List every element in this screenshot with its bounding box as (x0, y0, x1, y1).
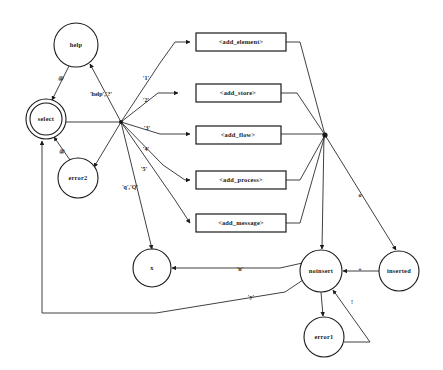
edge-label-help-to-select: @ (58, 75, 64, 81)
edge-hub-to-add-store (121, 93, 178, 122)
node-add-process[interactable]: <add_process> (196, 171, 286, 189)
edge-hub-to-noinsert (322, 135, 324, 249)
add-store-label: <add_store> (220, 89, 257, 96)
edge-label-hub-to-x: 'q','Q' (122, 184, 139, 190)
noinsert-label: noinsert (309, 267, 334, 274)
add-process-label: <add_process> (219, 176, 263, 183)
edge-label-hub-to-help: 'help','?' (90, 91, 113, 97)
node-add-element[interactable]: <add_element> (196, 33, 286, 51)
edge-label-hub-to-add-element: '1' (143, 75, 150, 81)
node-add-message[interactable]: <add_message> (196, 214, 286, 232)
node-noinsert[interactable]: noinsert (300, 250, 342, 292)
error2-label: error2 (68, 174, 87, 181)
edge-hub-to-error2 (94, 122, 121, 167)
edge-label-noinsert-to-x: 'n' (237, 266, 244, 272)
node-error1[interactable]: error1 (304, 317, 344, 357)
node-error2[interactable]: error2 (58, 158, 98, 198)
left-hub-dot (119, 120, 123, 124)
edge-label-return-to-select: 'y' (248, 294, 255, 300)
help-label: help (70, 41, 83, 48)
select-label: select (38, 115, 55, 122)
action-boxes-layer: <add_element> <add_store> <add_flow> <ad… (196, 33, 286, 232)
node-add-flow[interactable]: <add_flow> (196, 126, 281, 144)
node-add-store[interactable]: <add_store> (196, 84, 281, 102)
edge-help-to-select (52, 66, 69, 100)
edge-add-store-to-hub (281, 93, 325, 135)
edge-label-hub-to-add-flow: '3' (144, 125, 151, 131)
node-help[interactable]: help (54, 23, 98, 67)
error1-label: error1 (314, 333, 333, 340)
state-nodes-layer: help select error2 x noinsert inserted e… (26, 23, 419, 357)
node-inserted[interactable]: inserted (379, 251, 419, 291)
fsm-svg: <add_element> <add_store> <add_flow> <ad… (0, 0, 443, 370)
edge-hub-to-add-message (121, 122, 190, 223)
x-label: x (150, 264, 154, 271)
edge-hub-to-add-element (121, 42, 190, 122)
edge-noinsert-to-error1 (321, 292, 323, 316)
add-message-label: <add_message> (218, 219, 264, 226)
edge-label-error1-to-noinsert: ! (351, 299, 353, 305)
edge-add-process-to-hub (286, 135, 325, 180)
edge-label-hub-to-add-store: '2' (143, 97, 150, 103)
edge-label-hub-to-add-message: '5' (141, 166, 148, 172)
inserted-label: inserted (387, 267, 411, 274)
edge-label-hub-to-inserted: o (359, 192, 362, 198)
add-flow-label: <add_flow> (221, 131, 256, 138)
diagram-canvas: <add_element> <add_store> <add_flow> <ad… (0, 0, 443, 370)
edge-label-hub-to-add-process: '4' (143, 146, 150, 152)
edge-label-noinsert-to-inserted: + (358, 267, 362, 273)
edge-add-element-to-hub (286, 42, 325, 135)
node-select[interactable]: select (26, 99, 66, 139)
add-element-label: <add_element> (219, 38, 264, 45)
edge-label-error2-to-select: @ (59, 148, 65, 154)
edge-add-message-to-hub (286, 135, 325, 223)
node-x[interactable]: x (133, 249, 171, 287)
right-hub-dot (322, 132, 327, 137)
